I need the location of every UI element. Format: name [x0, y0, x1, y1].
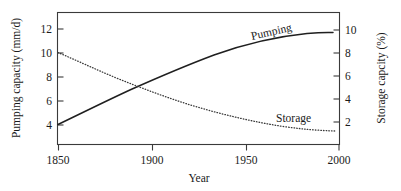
x-tick-label: 1950 [235, 154, 258, 166]
y-tick-label: 12 [41, 23, 53, 35]
y-axis-right-ticks [334, 30, 340, 122]
y-tick-label: 8 [46, 71, 52, 83]
x-tick-label: 1850 [47, 154, 70, 166]
y2-tick-label: 2 [345, 116, 351, 128]
y-tick-label: 10 [41, 47, 53, 59]
y-axis-left-title: Pumping capacity (mm/d) [10, 18, 23, 138]
y-axis-left-tick-labels: 12 10 8 6 4 [41, 23, 53, 131]
storage-series-label: Storage [276, 112, 311, 125]
y-axis-right-tick-labels: 10 8 6 4 2 [345, 24, 357, 128]
chart-figure: 12 10 8 6 4 10 8 6 4 2 [0, 0, 401, 191]
pumping-series-label: Pumping [250, 21, 294, 43]
pumping-curve [58, 33, 333, 125]
x-axis-ticks [59, 145, 340, 151]
y2-tick-label: 10 [345, 24, 357, 36]
y2-tick-label: 4 [345, 93, 351, 105]
y-axis-left-ticks [58, 29, 64, 125]
y-tick-label: 6 [46, 95, 52, 107]
y-axis-right-title: Storage capcity (%) [375, 32, 388, 123]
x-axis-tick-labels: 1850 1900 1950 2000 [47, 154, 351, 166]
y-tick-label: 4 [46, 119, 52, 131]
chart-canvas: 12 10 8 6 4 10 8 6 4 2 [0, 0, 401, 191]
x-axis-title: Year [188, 172, 209, 184]
y2-tick-label: 6 [345, 70, 351, 82]
x-tick-label: 1900 [141, 154, 164, 166]
x-tick-label: 2000 [328, 154, 351, 166]
plot-frame [58, 13, 340, 145]
y2-tick-label: 8 [345, 47, 351, 59]
